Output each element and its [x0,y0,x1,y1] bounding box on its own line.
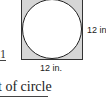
left-fragment-underline [0,60,6,61]
inscribed-circle [22,0,82,59]
square [21,0,83,60]
right-side-label: 12 in. [87,25,106,35]
caption-text: t of circle [0,79,52,95]
caption-underline [0,96,48,97]
left-fragment-text: 1 [0,47,5,61]
bottom-side-label: 12 in. [40,63,62,73]
